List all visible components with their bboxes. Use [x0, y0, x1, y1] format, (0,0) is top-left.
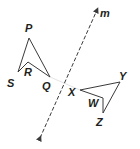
image-shape-xyzw — [80, 82, 120, 113]
label-m: m — [100, 7, 110, 19]
label-z: Z — [95, 116, 104, 128]
label-p: P — [25, 22, 33, 34]
label-r: R — [24, 66, 32, 78]
label-s: S — [7, 77, 15, 89]
label-q: Q — [42, 80, 51, 92]
connector-q-x — [50, 77, 80, 90]
preimage-shape-pqrs — [18, 38, 50, 77]
diagram-svg: m P R S Q X Y W Z — [0, 0, 140, 149]
label-y: Y — [119, 70, 128, 82]
label-w: W — [88, 97, 100, 109]
reflection-diagram: m P R S Q X Y W Z — [0, 0, 140, 149]
label-x: X — [67, 86, 76, 98]
